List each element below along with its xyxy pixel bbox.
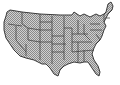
us-outline (4, 2, 113, 76)
us-map (0, 0, 120, 85)
us-map-svg (0, 0, 120, 85)
